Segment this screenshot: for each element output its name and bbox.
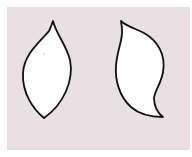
left-leaf-dot	[43, 53, 44, 54]
leaf-drawing	[0, 0, 192, 157]
